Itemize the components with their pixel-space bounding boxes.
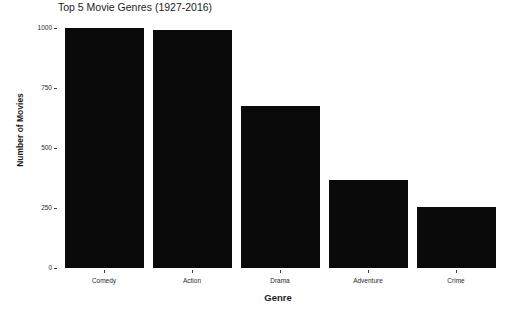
chart-title: Top 5 Movie Genres (1927-2016) [58, 1, 212, 14]
bar-adventure [329, 180, 408, 268]
x-tick-mark [192, 270, 193, 273]
y-tick-mark [54, 28, 57, 29]
x-axis-label: Genre [0, 292, 512, 303]
x-tick-mark [104, 270, 105, 273]
y-tick-label: 0 [0, 264, 52, 271]
x-tick-mark [280, 270, 281, 273]
x-tick-label: Comedy [64, 277, 144, 284]
x-tick-label: Crime [416, 277, 496, 284]
x-tick-label: Action [152, 277, 232, 284]
y-tick-mark [54, 208, 57, 209]
x-tick-mark [368, 270, 369, 273]
bar-drama [241, 106, 320, 268]
y-tick-mark [54, 148, 57, 149]
plot-area [60, 28, 500, 268]
y-axis-label: Number of Movies [15, 75, 25, 185]
x-tick-label: Drama [240, 277, 320, 284]
x-tick-mark [456, 270, 457, 273]
bar-crime [417, 207, 496, 268]
y-tick-label: 1000 [0, 24, 52, 31]
y-tick-label: 750 [0, 84, 52, 91]
y-tick-label: 500 [0, 144, 52, 151]
bar-action [153, 30, 232, 268]
bar-comedy [65, 28, 144, 268]
y-tick-mark [54, 88, 57, 89]
x-tick-label: Adventure [328, 277, 408, 284]
y-tick-label: 250 [0, 204, 52, 211]
y-tick-mark [54, 268, 57, 269]
bar-chart-figure: Top 5 Movie Genres (1927-2016) Number of… [0, 0, 512, 315]
